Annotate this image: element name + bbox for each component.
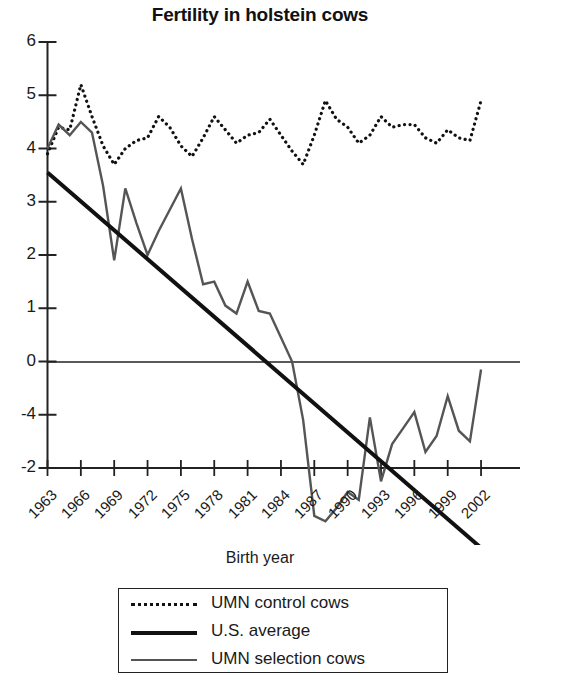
y-tick-label: 3 xyxy=(4,191,36,211)
legend-swatch-dotted-icon xyxy=(127,596,201,610)
y-tick-label: 4 xyxy=(4,138,36,158)
chart-svg xyxy=(0,0,572,545)
legend-label-us-average: U.S. average xyxy=(201,621,310,641)
series-line-umn-control-cows xyxy=(48,85,482,165)
y-tick-label: 5 xyxy=(4,84,36,104)
y-tick-label: -2 xyxy=(4,457,36,477)
y-tick-label: -4 xyxy=(4,404,36,424)
legend-label-umn-control-cows: UMN control cows xyxy=(201,593,349,613)
legend-item-umn-control-cows: UMN control cows xyxy=(119,589,447,617)
legend-item-umn-selection-cows: UMN selection cows xyxy=(119,645,447,673)
y-tick-label: 2 xyxy=(4,244,36,264)
y-tick-label: 1 xyxy=(4,297,36,317)
legend-label-umn-selection-cows: UMN selection cows xyxy=(201,649,365,669)
legend-swatch-solid-thin-icon xyxy=(127,652,201,666)
series-line-umn-selection-cows xyxy=(48,122,482,521)
chart-legend: UMN control cows U.S. average UMN select… xyxy=(118,588,448,673)
x-axis-title: Birth year xyxy=(0,549,520,567)
legend-swatch-solid-thick-icon xyxy=(127,624,201,638)
y-tick-label: 0 xyxy=(4,351,36,371)
y-tick-label: 6 xyxy=(4,31,36,51)
plot-area: 6543210-4-2 1963196619691972197519781981… xyxy=(0,0,572,545)
legend-item-us-average: U.S. average xyxy=(119,617,447,645)
